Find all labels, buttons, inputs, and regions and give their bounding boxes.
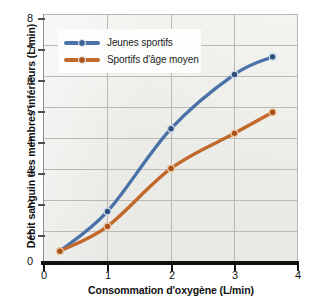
x-tick-label: 0 <box>34 270 54 281</box>
y-tick-mark <box>38 111 45 113</box>
legend-marker-icon <box>78 39 86 47</box>
y-tick-mark <box>38 235 45 237</box>
x-tick-label: 3 <box>225 270 245 281</box>
y-tick-mark <box>38 49 45 51</box>
y-tick-mark <box>38 142 45 144</box>
y-axis-title: Débit sanguin des membres inférieurs (L/… <box>25 11 37 261</box>
y-axis-line <box>43 14 44 262</box>
y-tick-mark <box>38 80 45 82</box>
x-tick-label: 1 <box>98 270 118 281</box>
legend-marker-icon <box>78 56 86 64</box>
legend-swatch-icon <box>64 54 100 65</box>
legend-item-jeunes-sportifs: Jeunes sportifs <box>64 34 201 51</box>
chart-figure: 8 7 6 5 4 3 2 1 0 0 1 2 3 4 Débit sangui… <box>0 0 312 304</box>
y-tick-mark <box>38 173 45 175</box>
y-tick-mark <box>38 204 45 206</box>
legend-label: Jeunes sportifs <box>107 37 173 48</box>
x-axis-title: Consommation d'oxygène (L/min) <box>44 284 298 296</box>
y-tick-mark <box>38 18 45 20</box>
x-axis-line <box>41 261 299 265</box>
legend-item-sportifs-age-moyen: Sportifs d'âge moyen <box>64 51 201 68</box>
x-tick-label: 2 <box>162 270 182 281</box>
chart-legend: Jeunes sportifs Sportifs d'âge moyen <box>58 29 201 73</box>
legend-swatch-icon <box>64 37 100 48</box>
legend-label: Sportifs d'âge moyen <box>107 54 199 65</box>
x-tick-label: 4 <box>288 270 308 281</box>
gridline-x <box>297 14 298 262</box>
gridline-x <box>234 14 235 262</box>
